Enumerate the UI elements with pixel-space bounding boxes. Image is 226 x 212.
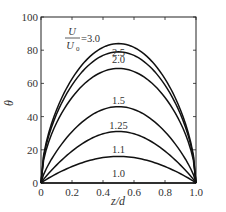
curve-label: 1.5	[112, 95, 125, 106]
x-tick-label: 0.8	[158, 186, 172, 198]
x-tick-label: 0.4	[96, 186, 110, 198]
curve-label: 1.25	[109, 120, 127, 131]
annotation-value: =3.0	[81, 33, 100, 44]
curve-2-5	[41, 52, 196, 183]
x-axis-label: z/d	[110, 194, 126, 208]
x-tick-label: 0.6	[127, 186, 141, 198]
annotation-numerator: U	[68, 26, 77, 37]
y-tick-label: 60	[27, 77, 39, 89]
parameter-annotation: U U 0 =3.0	[65, 26, 100, 53]
y-tick-label: 100	[22, 11, 39, 23]
curve-label: 2.0	[112, 54, 125, 65]
x-tick-label: 0.2	[65, 186, 79, 198]
x-tick-label: 0	[38, 186, 44, 198]
curve-label: 1.0	[112, 168, 125, 179]
annotation-denominator: U	[66, 40, 75, 51]
curve-labels: 2.52.01.51.251.11.0	[109, 47, 127, 179]
annotation-subscript: 0	[76, 45, 80, 53]
x-tick-label: 1.0	[189, 186, 203, 198]
y-tick-label: 80	[27, 44, 39, 56]
curve-label: 1.1	[112, 144, 125, 155]
y-tick-label: 40	[27, 111, 39, 123]
y-tick-label: 0	[33, 177, 39, 189]
y-axis-label: θ	[2, 100, 16, 106]
theta-profile-chart: 00.20.40.60.81.0020406080100 2.52.01.51.…	[0, 0, 226, 212]
y-tick-label: 20	[27, 144, 39, 156]
